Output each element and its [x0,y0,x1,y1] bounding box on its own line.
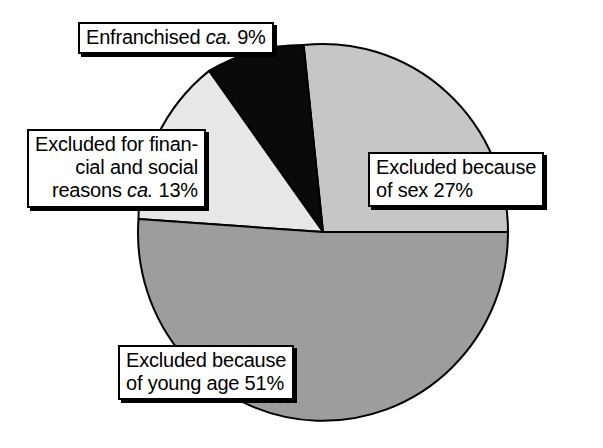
label-excluded-young-age: Excluded because of young age 51% [118,345,294,400]
label-financial-line1: Excluded for finan- [35,133,198,156]
label-financial-line3: reasons ca. 13% [35,179,198,202]
label-enfranchised-text: Enfranchised [86,26,206,48]
label-excluded-financial-social: Excluded for finan- cial and social reas… [27,129,206,208]
label-sex-line1: Excluded because [376,156,536,179]
label-financial-circa: ca. [127,179,153,201]
label-enfranchised: Enfranchised ca. 9% [78,22,274,54]
label-enfranchised-value: 9% [232,26,266,48]
label-young-age-line2: of young age 51% [126,372,286,395]
label-financial-value: 13% [153,179,198,201]
label-excluded-sex: Excluded because of sex 27% [368,152,544,207]
label-young-age-line1: Excluded because [126,349,286,372]
label-financial-line2: cial and social [35,156,198,179]
label-enfranchised-circa: ca. [206,26,232,48]
label-enfranchised-line1: Enfranchised ca. 9% [86,26,266,49]
label-sex-line2: of sex 27% [376,179,536,202]
label-financial-text: reasons [52,179,127,201]
pie-chart: Enfranchised ca. 9% Excluded for finan- … [0,0,603,448]
pie-chart-graphic [0,0,603,448]
